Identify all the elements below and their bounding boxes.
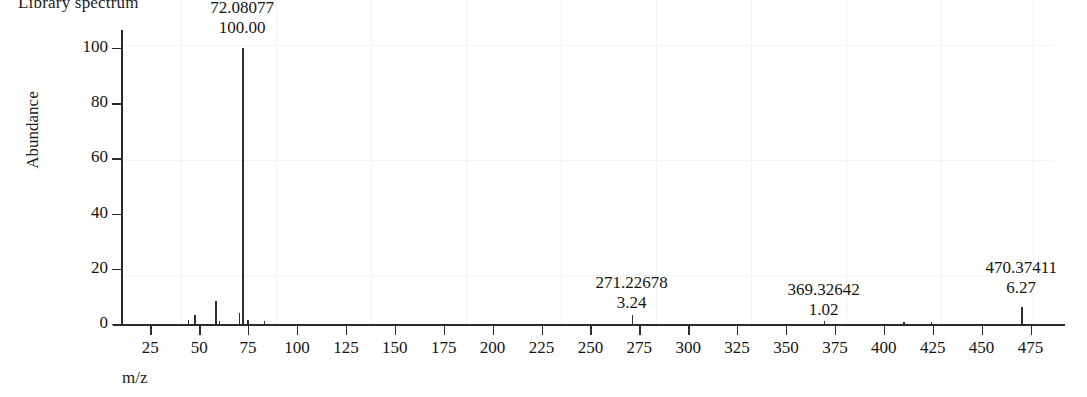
x-tick-475	[1031, 326, 1032, 335]
y-axis-line	[121, 30, 123, 326]
x-tick-label: 150	[382, 338, 408, 358]
x-axis-line	[113, 324, 1065, 326]
scan-artifact-line	[123, 160, 1053, 161]
x-tick-425	[933, 326, 934, 335]
x-tick-375	[835, 326, 836, 335]
peak-bar	[903, 322, 904, 324]
y-tick-80: 80	[112, 103, 121, 104]
peak-abundance-label: 6.27	[985, 278, 1057, 298]
peak-abundance-label: 100.00	[210, 18, 274, 38]
scan-artifact-line	[123, 45, 1053, 46]
x-tick-label: 100	[284, 338, 310, 358]
y-tick-label: 40	[91, 203, 108, 223]
scan-artifact-line	[561, 0, 562, 330]
y-tick-100: 100	[112, 48, 121, 49]
peak-bar	[242, 48, 244, 324]
x-tick-325	[737, 326, 738, 335]
x-tick-label: 175	[431, 338, 457, 358]
y-tick-60: 60	[112, 158, 121, 159]
x-tick-label: 75	[240, 338, 257, 358]
x-tick-100	[297, 326, 298, 335]
peak-bar	[215, 301, 217, 324]
peak-bar	[247, 320, 248, 324]
scan-artifact-line	[751, 0, 752, 330]
x-tick-225	[542, 326, 543, 335]
y-axis-title: Abundance	[23, 70, 43, 190]
x-axis-title: m/z	[122, 368, 148, 388]
x-tick-25	[150, 326, 151, 335]
x-tick-label: 200	[480, 338, 506, 358]
plot-area: 0 20 40 60 80 100 25 50 75 100 125 150 1…	[121, 30, 1054, 325]
x-tick-label: 125	[333, 338, 359, 358]
peak-abundance-label: 3.24	[595, 293, 667, 313]
scan-artifact-line	[123, 275, 1053, 276]
x-tick-50	[199, 326, 200, 335]
x-tick-label: 475	[1018, 338, 1044, 358]
x-tick-450	[982, 326, 983, 335]
x-tick-label: 250	[578, 338, 604, 358]
figure-title: Library spectrum	[18, 0, 139, 13]
peak-bar	[188, 320, 189, 324]
x-tick-250	[590, 326, 591, 335]
x-tick-label: 275	[627, 338, 653, 358]
x-tick-350	[786, 326, 787, 335]
scan-artifact-line	[276, 0, 277, 330]
y-tick-label: 100	[83, 37, 109, 57]
x-tick-label: 425	[920, 338, 946, 358]
y-tick-0: 0	[112, 324, 121, 325]
x-tick-label: 25	[142, 338, 159, 358]
peak-mz-label: 369.32642	[788, 280, 860, 300]
scan-artifact-line	[941, 0, 942, 330]
peak-annotation-271: 271.22678 3.24	[595, 273, 667, 313]
peak-annotation-470: 470.37411 6.27	[985, 258, 1057, 298]
x-tick-275	[639, 326, 640, 335]
x-tick-label: 50	[191, 338, 208, 358]
x-tick-75	[248, 326, 249, 335]
x-tick-label: 375	[822, 338, 848, 358]
scan-artifact-line	[181, 0, 182, 330]
y-tick-label: 0	[100, 313, 109, 333]
y-tick-20: 20	[112, 269, 121, 270]
x-tick-label: 325	[724, 338, 750, 358]
peak-annotation-369: 369.32642 1.02	[788, 280, 860, 320]
peak-mz-label: 271.22678	[595, 273, 667, 293]
peak-annotation-72: 72.08077 100.00	[210, 0, 274, 38]
peak-bar	[219, 321, 220, 324]
peak-bar	[264, 321, 265, 324]
y-tick-40: 40	[112, 214, 121, 215]
peak-mz-label: 470.37411	[985, 258, 1057, 278]
peak-bar	[1021, 307, 1023, 324]
y-tick-label: 20	[91, 258, 108, 278]
peak-bar	[194, 315, 195, 324]
peak-bar	[931, 322, 932, 324]
x-tick-150	[395, 326, 396, 335]
peak-abundance-label: 1.02	[788, 300, 860, 320]
x-tick-125	[346, 326, 347, 335]
peak-bar	[824, 321, 825, 324]
peak-bar	[239, 313, 240, 324]
x-tick-label: 400	[871, 338, 897, 358]
x-tick-400	[884, 326, 885, 335]
y-tick-label: 80	[91, 92, 108, 112]
x-tick-label: 300	[675, 338, 701, 358]
x-tick-200	[493, 326, 494, 335]
x-tick-label: 450	[969, 338, 995, 358]
y-tick-label: 60	[91, 147, 108, 167]
x-tick-label: 225	[529, 338, 555, 358]
x-tick-175	[444, 326, 445, 335]
peak-mz-label: 72.08077	[210, 0, 274, 18]
peak-bar	[632, 315, 633, 324]
x-tick-300	[688, 326, 689, 335]
x-tick-label: 350	[773, 338, 799, 358]
scan-artifact-line	[466, 0, 467, 330]
scan-artifact-line	[371, 0, 372, 330]
mass-spectrum-figure: Library spectrum Abundance m/z 0 20 40	[0, 0, 1087, 397]
